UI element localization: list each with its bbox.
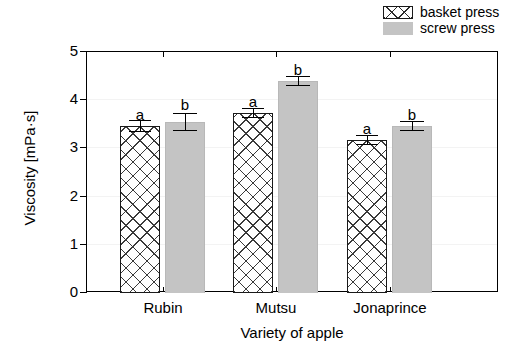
error-bar-cap-bottom (400, 130, 424, 131)
bottom-tick-1 (163, 287, 164, 292)
bar-rubin-screw-press (165, 122, 205, 293)
significance-letter-jonaprince-screw-press: b (397, 107, 427, 122)
bar-jonaprince-screw-press (392, 126, 432, 293)
chart-legend: basket press screw press (383, 4, 505, 36)
y-tick-label-3: 3 (54, 139, 78, 154)
significance-letter-mutsu-basket-press: a (238, 94, 268, 109)
legend-item-basket-press: basket press (383, 4, 505, 20)
bar-mutsu-screw-press (278, 81, 318, 293)
legend-label-screw-press: screw press (420, 20, 495, 36)
error-bar-cap-bottom (173, 130, 197, 131)
viscosity-bar-chart: basket press screw press 5 4 3 2 1 0 (0, 0, 508, 352)
gray-swatch-icon (383, 22, 413, 35)
error-bar-cap-bottom (129, 131, 151, 132)
top-tick-3 (390, 52, 391, 57)
y-tick-label-0: 0 (54, 284, 78, 299)
legend-label-basket-press: basket press (420, 4, 499, 20)
x-axis-title: Variety of apple (86, 325, 498, 341)
y-tick-label-2: 2 (54, 188, 78, 203)
bottom-tick-3 (390, 287, 391, 292)
significance-letter-mutsu-screw-press: b (283, 62, 313, 77)
x-tick-label-rubin: Rubin (113, 300, 213, 316)
top-tick-1 (163, 52, 164, 57)
x-tick-label-mutsu: Mutsu (226, 300, 326, 316)
top-tick-2 (276, 52, 277, 57)
error-bar-cap-top (173, 113, 197, 114)
crosshatch-swatch-icon (383, 6, 413, 19)
significance-letter-jonaprince-basket-press: a (352, 121, 382, 136)
legend-item-screw-press: screw press (383, 20, 505, 36)
significance-letter-rubin-screw-press: b (170, 97, 200, 112)
bottom-tick-2 (276, 287, 277, 292)
error-bar-cap-bottom (286, 85, 310, 86)
y-tick-label-4: 4 (54, 91, 78, 106)
bar-rubin-basket-press (120, 126, 160, 293)
y-tick-label-1: 1 (54, 236, 78, 251)
error-bar-cap-bottom (356, 144, 378, 145)
error-bar-rubin-screw-press (165, 113, 205, 131)
y-tick-mark-0 (80, 292, 87, 293)
error-bar-cap-bottom (242, 117, 264, 118)
significance-letter-rubin-basket-press: a (125, 107, 155, 122)
y-axis-title: Viscosity [mPa·s] (22, 58, 38, 278)
x-tick-label-jonaprince: Jonaprince (340, 300, 440, 316)
error-bar-line (185, 113, 186, 131)
y-tick-label-5: 5 (54, 43, 78, 58)
bar-mutsu-basket-press (233, 113, 273, 293)
bar-jonaprince-basket-press (347, 140, 387, 293)
